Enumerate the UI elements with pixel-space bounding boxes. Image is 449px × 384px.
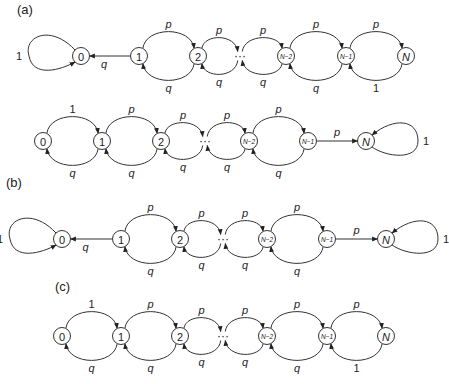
state-node-0: 0 (35, 133, 52, 150)
state-node-1: 1 (113, 231, 130, 248)
transition-probability-label: q (242, 356, 249, 368)
transition-edge: q (290, 64, 342, 94)
edge-path (125, 312, 176, 329)
transition-edge: 1 (372, 123, 429, 155)
edge-path (242, 60, 282, 74)
transition-edge: q (253, 149, 304, 179)
edge-path (184, 243, 221, 257)
state-label: N−2 (243, 138, 255, 145)
transition-probability-label: q (82, 241, 89, 253)
transition-probability-label: p (259, 24, 266, 36)
transition-edge: q (225, 243, 263, 271)
transition-probability-label: 1 (16, 50, 22, 62)
transition-edge: p (271, 298, 323, 328)
transition-edge: p (350, 18, 402, 48)
state-label: N−1 (321, 236, 333, 243)
state-node-N: N (358, 133, 375, 150)
state-node-2: 2 (172, 231, 189, 248)
transition-probability-label: p (352, 298, 359, 310)
transition-probability-label: q (216, 76, 223, 88)
edge-path (143, 32, 194, 49)
state-label: N−1 (321, 333, 333, 340)
transition-edge: p (225, 207, 263, 235)
state-label: 1 (136, 51, 142, 63)
transition-probability-label: q (88, 362, 95, 374)
panel-label: (a) (17, 2, 33, 17)
transition-probability-label: q (101, 58, 108, 70)
state-label: 1 (99, 136, 105, 148)
transition-probability-label: q (180, 161, 187, 173)
transition-probability-label: p (293, 201, 300, 213)
transition-edge: q (143, 64, 194, 94)
transition-edge: q (225, 340, 263, 368)
edge-path (47, 149, 98, 166)
transition-edge: p (184, 207, 221, 235)
transition-probability-label: q (69, 167, 76, 179)
ellipsis-dots: ··· (217, 329, 229, 343)
transition-edge: p (106, 103, 157, 133)
transition-edge: 1 (331, 344, 382, 374)
transition-probability-label: q (198, 259, 205, 271)
state-node-0: 0 (54, 328, 71, 345)
panel-a2: 1qpqpqpqpqp1···012N−2N−1N (35, 103, 430, 179)
state-label: N−2 (261, 236, 273, 243)
panel-b: (b)1qpqpqpqpqp1···012N−2N−1N (0, 175, 449, 277)
transition-edge: q (47, 149, 98, 179)
state-label: 1 (118, 331, 124, 343)
state-node-N-1: N−1 (300, 133, 317, 150)
ellipsis-dots: ··· (234, 49, 246, 63)
state-label: 2 (177, 331, 183, 343)
edge-path (202, 60, 238, 74)
edge-path (253, 149, 304, 166)
transition-probability-label: p (241, 207, 248, 219)
ellipsis-dots: ··· (199, 134, 211, 148)
transition-probability-label: p (197, 304, 204, 316)
state-node-1: 1 (131, 48, 148, 65)
state-label: 2 (177, 234, 183, 246)
panel-a1: (a)1qpqpqpqpqp1···012N−2N−1N (16, 2, 415, 94)
state-node-0: 0 (54, 231, 71, 248)
transition-edge: q (106, 149, 157, 179)
edge-path (225, 318, 263, 332)
transition-probability-label: p (223, 109, 230, 121)
transition-edge: p (290, 18, 342, 48)
state-node-0: 0 (73, 48, 90, 65)
state-node-N: N (398, 48, 415, 65)
edge-path (47, 117, 98, 134)
edge-path (106, 149, 157, 166)
state-node-2: 2 (153, 133, 170, 150)
state-label: 0 (78, 51, 84, 63)
state-label: N (402, 51, 410, 63)
edge-path (207, 145, 245, 159)
transition-probability-label: p (312, 18, 319, 30)
edge-path (271, 344, 323, 361)
transition-probability-label: q (165, 82, 172, 94)
state-node-N: N (378, 231, 395, 248)
transition-probability-label: p (146, 201, 153, 213)
edge-path (184, 318, 221, 332)
transition-edge: q (184, 243, 221, 271)
transition-probability-label: p (197, 207, 204, 219)
transition-probability-label: 1 (373, 82, 379, 94)
edge-path (392, 221, 438, 253)
transition-probability-label: p (146, 298, 153, 310)
edge-path (125, 247, 176, 264)
transition-probability-label: p (333, 126, 340, 138)
transition-edge: q (271, 247, 323, 277)
state-node-N-1: N−1 (338, 48, 355, 65)
panel-c: (c)1qpqpqpqpqp1···012N−2N−1N (54, 279, 395, 374)
edge-path (290, 64, 342, 81)
state-label: 2 (158, 136, 164, 148)
edge-path (271, 312, 323, 329)
transition-probability-label: q (198, 356, 205, 368)
edge-path (184, 221, 221, 235)
state-node-N: N (378, 328, 395, 345)
state-node-1: 1 (94, 133, 111, 150)
transition-edge: 1 (47, 103, 98, 133)
transition-edge: p (331, 298, 382, 328)
transition-edge: p (184, 304, 221, 332)
edge-path (350, 32, 402, 49)
transition-probability-label: q (224, 161, 231, 173)
transition-probability-label: q (275, 167, 282, 179)
transition-edge: 1 (16, 35, 75, 70)
